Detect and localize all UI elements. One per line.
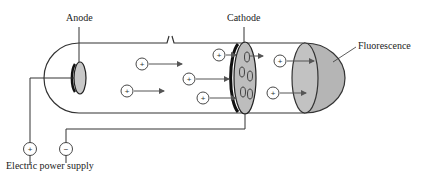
- anode-electrode: [72, 27, 86, 94]
- svg-text:+: +: [140, 60, 145, 69]
- ion-particle: +: [197, 92, 209, 104]
- power-supply-label: Electric power supply: [6, 160, 94, 171]
- svg-text:+: +: [125, 87, 130, 96]
- fluorescence-label: Fluorescence: [358, 40, 411, 51]
- ion-particle: +: [213, 49, 225, 61]
- svg-text:+: +: [278, 57, 283, 66]
- positive-terminal: +: [24, 143, 37, 156]
- ion-particle: +: [121, 85, 133, 97]
- cathode-electrode: [231, 27, 256, 114]
- ion-arrows: [134, 55, 314, 98]
- svg-text:+: +: [28, 145, 33, 154]
- svg-text:+: +: [187, 75, 192, 84]
- ion-particle: +: [183, 73, 195, 85]
- discharge-tube-diagram: + + + + + + + + − Anode Cathode Fluoresc…: [0, 0, 428, 175]
- anode-label: Anode: [66, 12, 93, 23]
- positive-ions: + + + + + + +: [121, 49, 286, 104]
- ion-particle: +: [274, 55, 286, 67]
- svg-text:+: +: [201, 94, 206, 103]
- fluorescence-leader: [333, 47, 356, 62]
- svg-text:+: +: [217, 51, 222, 60]
- svg-text:+: +: [271, 89, 276, 98]
- negative-terminal: −: [60, 143, 73, 156]
- ion-particle: +: [136, 58, 148, 70]
- svg-text:−: −: [64, 145, 69, 154]
- fluorescent-screen: [292, 43, 345, 113]
- cathode-label: Cathode: [227, 12, 261, 23]
- ion-particle: +: [267, 87, 279, 99]
